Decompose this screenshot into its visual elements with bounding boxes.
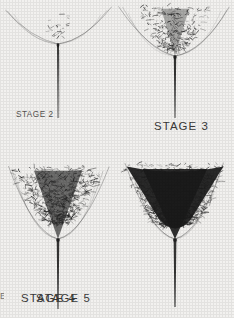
specimen-drawing-stage-3 <box>117 0 234 159</box>
panel-stage-5 <box>117 159 234 318</box>
panel-caption-stage-2: STAGE 2 <box>16 110 53 119</box>
figure-plate: STAGE 2 STAGE 3 STAGE 4 STAGE 5 E <box>0 0 234 318</box>
specimen-drawing-stage-2 <box>0 0 117 159</box>
edge-artifact-text: E <box>0 291 4 302</box>
panel-stage-2: STAGE 2 <box>0 0 117 159</box>
panel-stage-3: STAGE 3 <box>117 0 234 159</box>
panel-caption-stage-5: STAGE 5 <box>36 292 91 304</box>
specimen-drawing-stage-5 <box>117 159 234 318</box>
panel-caption-stage-3: STAGE 3 <box>154 120 209 132</box>
